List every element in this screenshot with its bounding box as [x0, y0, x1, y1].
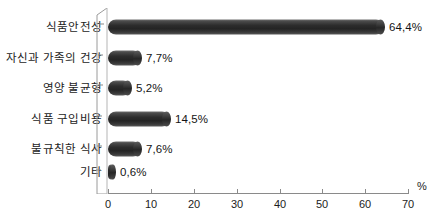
y-tick-5 — [96, 170, 101, 171]
plot-area: 64,4% 7,7% 5,2% 14,5% 7,6% 0,6% 0 10 20 … — [0, 0, 434, 221]
x-axis-unit-label: % — [417, 180, 427, 192]
y-tick-3 — [97, 116, 102, 117]
x-tick-label-7: 70 — [402, 198, 414, 210]
x-tick-label-5: 50 — [316, 198, 328, 210]
x-tick-7 — [408, 189, 409, 194]
value-label-4: 7,6% — [146, 143, 173, 155]
y-tick-4 — [97, 146, 102, 147]
x-axis-line — [108, 193, 408, 194]
bar-1 — [108, 51, 141, 66]
bar-5 — [108, 165, 115, 180]
x-tick-5 — [322, 189, 323, 194]
x-tick-label-3: 30 — [231, 198, 243, 210]
y-tick-2 — [98, 85, 103, 86]
x-tick-2 — [194, 189, 195, 194]
bar-4 — [108, 142, 141, 157]
x-tick-6 — [365, 189, 366, 194]
y-tick-1 — [98, 55, 103, 56]
value-label-3: 14,5% — [175, 113, 208, 125]
x-tick-label-0: 0 — [105, 198, 111, 210]
x-tick-1 — [151, 189, 152, 194]
y-tick-0 — [99, 24, 104, 25]
bar-chart: 식품안전성 자신과 가족의 건강 영양 불균형 식품 구입비용 불규칙한 식사 … — [0, 0, 434, 221]
value-label-5: 0,6% — [120, 166, 147, 178]
value-label-1: 7,7% — [146, 52, 173, 64]
x-tick-label-4: 40 — [274, 198, 286, 210]
bar-2 — [108, 81, 131, 96]
value-label-0: 64,4% — [389, 21, 422, 33]
bar-0 — [108, 20, 384, 35]
x-tick-label-2: 20 — [188, 198, 200, 210]
x-tick-4 — [280, 189, 281, 194]
bar-3 — [108, 112, 170, 127]
value-label-2: 5,2% — [136, 82, 163, 94]
x-tick-0 — [108, 189, 109, 194]
x-tick-label-1: 10 — [145, 198, 157, 210]
x-tick-3 — [237, 189, 238, 194]
x-tick-label-6: 60 — [359, 198, 371, 210]
